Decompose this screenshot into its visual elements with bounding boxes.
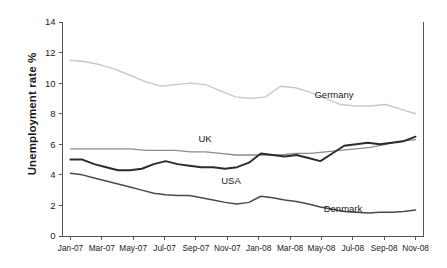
series-label-uk: UK xyxy=(198,133,212,144)
y-tick-label: 6 xyxy=(50,139,55,150)
y-tick-label: 10 xyxy=(45,78,56,89)
x-axis-ticks: Jan-07Mar-07May-07Jul-07Sep-07Nov-07Jan-… xyxy=(58,236,430,253)
y-tick-label: 8 xyxy=(50,108,55,119)
unemployment-rate-line-chart: Unemployment rate % 02468101214 Jan-07Ma… xyxy=(0,0,447,268)
chart-canvas: 02468101214 Jan-07Mar-07May-07Jul-07Sep-… xyxy=(0,0,447,268)
series-line-usa xyxy=(70,137,415,171)
x-tick-label: Jul-08 xyxy=(342,243,365,253)
x-tick-label: May-07 xyxy=(119,243,147,253)
y-tick-label: 4 xyxy=(50,169,55,180)
x-tick-label: May-08 xyxy=(308,243,336,253)
x-tick-label: Jul-07 xyxy=(153,243,176,253)
x-tick-label: Mar-08 xyxy=(277,243,304,253)
data-series-group xyxy=(70,60,415,213)
x-tick-label: Jan-07 xyxy=(58,243,84,253)
x-tick-label: Mar-07 xyxy=(89,243,116,253)
series-label-denmark: Denmark xyxy=(324,203,363,214)
series-line-uk xyxy=(70,140,415,155)
series-annotations: GermanyUKUSADenmark xyxy=(198,89,362,214)
y-tick-label: 12 xyxy=(45,47,56,58)
x-tick-label: Nov-08 xyxy=(402,243,429,253)
x-tick-label: Nov-07 xyxy=(214,243,241,253)
x-tick-label: Sep-07 xyxy=(183,243,210,253)
series-line-denmark xyxy=(70,173,415,213)
axes xyxy=(63,22,425,237)
y-tick-label: 0 xyxy=(50,230,55,241)
x-tick-label: Jan-08 xyxy=(246,243,272,253)
series-label-germany: Germany xyxy=(314,89,353,100)
x-tick-label: Sep-08 xyxy=(371,243,398,253)
y-axis-ticks: 02468101214 xyxy=(45,16,63,241)
series-line-germany xyxy=(70,60,415,114)
y-tick-label: 2 xyxy=(50,200,55,211)
series-label-usa: USA xyxy=(221,175,241,186)
y-tick-label: 14 xyxy=(45,16,56,27)
